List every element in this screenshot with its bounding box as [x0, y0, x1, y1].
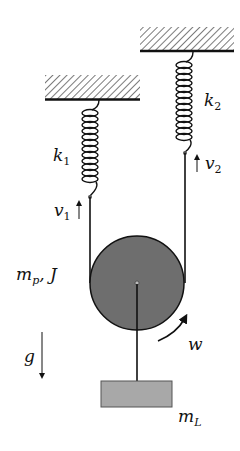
spring-k1	[82, 100, 99, 196]
left-ceiling	[45, 75, 140, 100]
label-gravity: g	[24, 346, 35, 366]
label-v2: v2	[205, 153, 222, 176]
label-load: mL	[178, 406, 201, 429]
label-k1: k1	[53, 145, 70, 168]
right-ceiling	[140, 27, 234, 51]
label-omega: w	[188, 334, 203, 354]
label-pulley: mp, J	[16, 264, 58, 287]
label-k2: k2	[204, 90, 221, 113]
spring-k2	[176, 52, 193, 152]
label-v1: v1	[54, 200, 71, 223]
pulley-spring-diagram: k1 k2 v1 v2 mp, J g w mL	[0, 0, 240, 451]
load-block	[101, 381, 172, 407]
